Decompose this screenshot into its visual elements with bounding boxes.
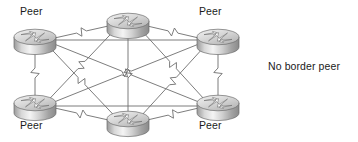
- router-label-r3: Peer: [199, 5, 222, 17]
- cisco-router-icon: [107, 111, 149, 136]
- cisco-router-icon: [14, 29, 56, 54]
- peer-link: [52, 25, 111, 38]
- peer-link: [31, 48, 39, 98]
- network-diagram: PeerPeerPeerPeer No border peer: [0, 0, 358, 142]
- router-label-r1: Peer: [20, 5, 43, 17]
- peer-link: [52, 107, 111, 120]
- cisco-router-icon: [197, 29, 239, 54]
- peer-link: [145, 25, 202, 38]
- link-group: [31, 25, 222, 120]
- cisco-router-icon: [14, 95, 56, 120]
- peer-link: [145, 107, 202, 120]
- cisco-router-icon: [197, 95, 239, 120]
- peer-link: [124, 32, 132, 114]
- annotation-no-border-peer: No border peer: [268, 60, 340, 72]
- router-label-r6: Peer: [199, 119, 222, 131]
- peer-link: [214, 48, 222, 98]
- router-label-r4: Peer: [20, 119, 43, 131]
- cisco-router-icon: [107, 13, 149, 38]
